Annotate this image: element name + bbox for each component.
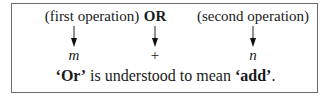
label-second-operation: (second operation): [197, 8, 309, 25]
caption-middle: is understood to mean: [86, 67, 235, 84]
caption-word-add: add: [240, 67, 266, 84]
caption-end: .: [271, 67, 275, 84]
symbol-n: n: [249, 47, 257, 64]
caption: ‘Or’ is understood to mean ‘add’.: [0, 67, 331, 85]
symbol-m: m: [69, 47, 80, 64]
label-or: OR: [144, 8, 167, 25]
symbol-plus: +: [151, 47, 159, 64]
label-first-operation: (first operation): [45, 8, 140, 25]
caption-word-or: Or: [61, 67, 81, 84]
